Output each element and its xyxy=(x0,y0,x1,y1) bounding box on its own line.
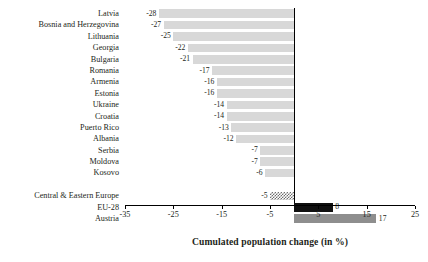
bar-row: -14 xyxy=(125,111,415,122)
bar-row: -12 xyxy=(125,133,415,144)
bar xyxy=(270,192,294,201)
bar-row: -27 xyxy=(125,19,415,30)
category-label: Bulgaria xyxy=(0,54,122,65)
category-label: Serbia xyxy=(0,145,122,156)
bar-row: -13 xyxy=(125,122,415,133)
bar-value-label: -16 xyxy=(204,88,217,98)
category-label: EU-28 xyxy=(0,202,122,213)
bar xyxy=(236,135,294,144)
x-axis-ticks: -35-25-15-551525 xyxy=(125,206,415,220)
bar xyxy=(260,146,294,155)
bar xyxy=(164,21,295,30)
category-label: Romania xyxy=(0,65,122,76)
bar xyxy=(227,112,295,121)
category-label: Bosnia and Herzegovina xyxy=(0,19,122,30)
category-label: Moldova xyxy=(0,156,122,167)
x-tick-label: -35 xyxy=(120,210,131,220)
x-tick-mark xyxy=(125,206,126,209)
bar-value-label: -22 xyxy=(175,43,188,53)
bar-value-label: -21 xyxy=(180,54,193,64)
bar xyxy=(188,44,294,53)
bar-value-label: -7 xyxy=(252,145,261,155)
category-label: Armenia xyxy=(0,76,122,87)
category-label: Central & Eastern Europe xyxy=(0,190,122,201)
bar-value-label: -6 xyxy=(256,168,265,178)
bar xyxy=(217,89,294,98)
bar-row: -14 xyxy=(125,99,415,110)
bar-row: -7 xyxy=(125,145,415,156)
category-label: Puerto Rico xyxy=(0,122,122,133)
bar xyxy=(217,78,294,87)
x-tick-label: -5 xyxy=(267,210,274,220)
bar-row: -6 xyxy=(125,167,415,178)
bar-row: -16 xyxy=(125,76,415,87)
bar xyxy=(260,157,294,166)
category-axis-labels: LatviaBosnia and HerzegovinaLithuaniaGeo… xyxy=(0,8,122,224)
bar-row: -25 xyxy=(125,31,415,42)
x-tick-mark xyxy=(415,206,416,209)
category-label: Estonia xyxy=(0,88,122,99)
bar xyxy=(227,101,295,110)
bar-value-label: -25 xyxy=(161,31,174,41)
bar-value-label: -17 xyxy=(199,66,212,76)
bar xyxy=(212,66,294,75)
bar-row: -5 xyxy=(125,190,415,201)
bar-value-label: -13 xyxy=(219,123,232,133)
bar-value-label: -16 xyxy=(204,77,217,87)
bar-row: -21 xyxy=(125,54,415,65)
bar xyxy=(231,123,294,132)
bar-value-label: -12 xyxy=(224,134,237,144)
bar-row xyxy=(125,179,415,190)
category-label: Lithuania xyxy=(0,31,122,42)
bar-row: -28 xyxy=(125,8,415,19)
x-tick-label: 5 xyxy=(316,210,320,220)
bar-row: -17 xyxy=(125,65,415,76)
category-label: Latvia xyxy=(0,8,122,19)
x-axis-title: Cumulated population change (in %) xyxy=(125,236,415,247)
bar-value-label: -14 xyxy=(214,111,227,121)
population-change-bar-chart: LatviaBosnia and HerzegovinaLithuaniaGeo… xyxy=(0,0,428,262)
bar-row: -22 xyxy=(125,42,415,53)
category-label: Austria xyxy=(0,213,122,224)
bar-row: -16 xyxy=(125,88,415,99)
bar-value-label: -27 xyxy=(151,20,164,30)
bar-value-label: -7 xyxy=(252,157,261,167)
bar-value-label: -5 xyxy=(261,191,270,201)
bar xyxy=(159,9,294,18)
x-tick-mark xyxy=(367,206,368,209)
x-tick-mark xyxy=(222,206,223,209)
bar xyxy=(193,55,295,64)
x-tick-label: -25 xyxy=(168,210,179,220)
x-tick-mark xyxy=(173,206,174,209)
bar xyxy=(173,32,294,41)
category-label: Croatia xyxy=(0,111,122,122)
bar-value-label: -14 xyxy=(214,100,227,110)
x-tick-label: 25 xyxy=(411,210,419,220)
category-label: Albania xyxy=(0,133,122,144)
category-label: Ukraine xyxy=(0,99,122,110)
x-tick-mark xyxy=(270,206,271,209)
x-tick-label: 15 xyxy=(363,210,371,220)
bar-row: -7 xyxy=(125,156,415,167)
plot-area: -28-27-25-22-21-17-16-16-14-14-13-12-7-7… xyxy=(125,8,415,205)
bar-value-label: -28 xyxy=(146,9,159,19)
x-tick-mark xyxy=(318,206,319,209)
bar xyxy=(265,169,294,178)
category-label: Georgia xyxy=(0,42,122,53)
x-tick-label: -15 xyxy=(216,210,227,220)
category-label: Kosovo xyxy=(0,167,122,178)
